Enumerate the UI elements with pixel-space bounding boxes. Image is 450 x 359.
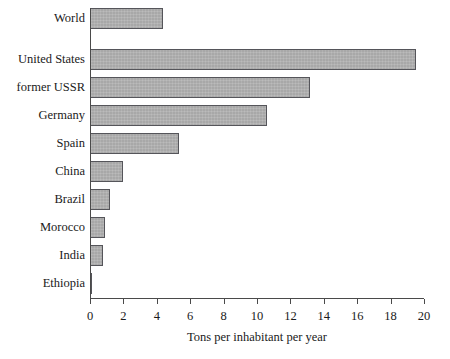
x-axis-tick-label: 2 xyxy=(120,309,126,324)
bar xyxy=(90,49,416,70)
y-axis-tick-label: Brazil xyxy=(3,189,85,210)
bar xyxy=(90,8,163,29)
x-axis-title: Tons per inhabitant per year xyxy=(90,330,424,345)
bar xyxy=(90,133,179,154)
x-axis-tick-label: 16 xyxy=(351,309,364,324)
y-axis-tick-label: Ethiopia xyxy=(3,273,85,294)
y-axis-tick-label: Morocco xyxy=(3,217,85,238)
y-axis-tick-label: former USSR xyxy=(3,77,85,98)
x-axis-tick-label: 0 xyxy=(87,309,93,324)
y-axis-tick-label: Spain xyxy=(3,133,85,154)
bar xyxy=(90,161,123,182)
bar xyxy=(90,189,110,210)
y-axis-tick-label: World xyxy=(3,8,85,29)
x-axis-tick-label: 18 xyxy=(384,309,397,324)
x-axis-tick xyxy=(424,299,425,304)
x-axis-tick-label: 8 xyxy=(220,309,226,324)
bar xyxy=(90,105,267,126)
x-axis-tick-label: 12 xyxy=(284,309,297,324)
y-axis-tick-label: Germany xyxy=(3,105,85,126)
bar xyxy=(90,77,310,98)
y-axis-tick-label: China xyxy=(3,161,85,182)
y-axis-line xyxy=(90,8,91,298)
bar xyxy=(90,245,103,266)
x-axis-tick-label: 20 xyxy=(418,309,431,324)
x-axis-tick-label: 10 xyxy=(251,309,264,324)
y-axis-tick-label: India xyxy=(3,245,85,266)
x-axis-tick-labels: 02468101214161820 xyxy=(90,303,424,321)
plot-area xyxy=(90,8,424,294)
x-axis-tick-label: 14 xyxy=(318,309,331,324)
y-axis-tick-label: United States xyxy=(3,49,85,70)
x-axis-tick-label: 6 xyxy=(187,309,193,324)
x-axis-tick-label: 4 xyxy=(154,309,160,324)
bar-chart: WorldUnited Statesformer USSRGermanySpai… xyxy=(0,0,450,359)
bar xyxy=(90,217,105,238)
y-axis-labels: WorldUnited Statesformer USSRGermanySpai… xyxy=(0,8,85,294)
